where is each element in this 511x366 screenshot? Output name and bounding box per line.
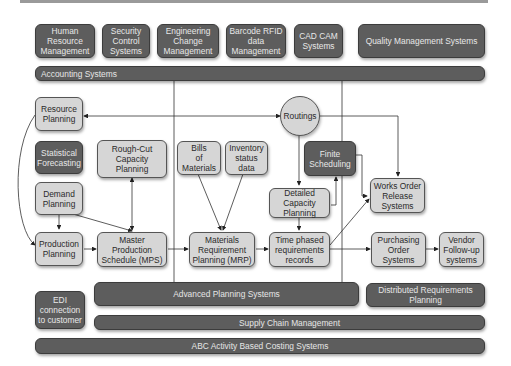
works-order-release-node: Works Order Release Systems (370, 178, 425, 213)
quality-management-systems-box: Quality Management Systems (358, 24, 485, 58)
production-planning-node: Production Planning (35, 232, 83, 266)
time-phased-requirements-node: Time phased requirements records (269, 232, 330, 267)
inventory-status-data-node: Inventory status data (225, 141, 268, 175)
resource-planning-node: Resource Planning (35, 97, 83, 131)
detailed-capacity-planning-node: Detailed Capacity Planning (269, 188, 330, 218)
demand-planning-node: Demand Planning (35, 182, 83, 215)
vendor-follow-up-node: Vendor Follow-up systems (439, 232, 484, 267)
distributed-requirements-planning-bar: Distributed Requirements Planning (366, 283, 485, 307)
statistical-forecasting-node: Statistical Forecasting (35, 141, 83, 174)
barcode-rfid-box: Barcode RFID data Management (226, 24, 286, 58)
accounting-systems-bar: Accounting Systems (35, 66, 485, 81)
advanced-planning-systems-bar: Advanced Planning Systems (94, 282, 359, 306)
security-control-systems-box: Security Control Systems (102, 24, 150, 58)
supply-chain-management-bar: Supply Chain Management (94, 315, 485, 330)
abc-costing-systems-bar: ABC Activity Based Costing Systems (35, 338, 485, 354)
finite-scheduling-node: Finite Scheduling (304, 141, 356, 176)
bills-of-materials-node: Bills of Materials (177, 141, 221, 175)
edi-connection-box: EDI connection to customer (35, 291, 85, 329)
engineering-change-management-box: Engineering Change Management (157, 24, 219, 58)
routings-node: Routings (280, 96, 320, 136)
rough-cut-capacity-planning-node: Rough-Cut Capacity Planning (97, 140, 167, 178)
master-production-schedule-node: Master Production Schedule (MPS) (97, 232, 167, 267)
materials-requirement-planning-node: Materials Requirement Planning (MRP) (189, 232, 255, 267)
purchasing-order-systems-node: Purchasing Order Systems (371, 232, 426, 267)
human-resource-management-box: Human Resource Management (35, 24, 95, 58)
cad-cam-systems-box: CAD CAM Systems (294, 24, 343, 58)
